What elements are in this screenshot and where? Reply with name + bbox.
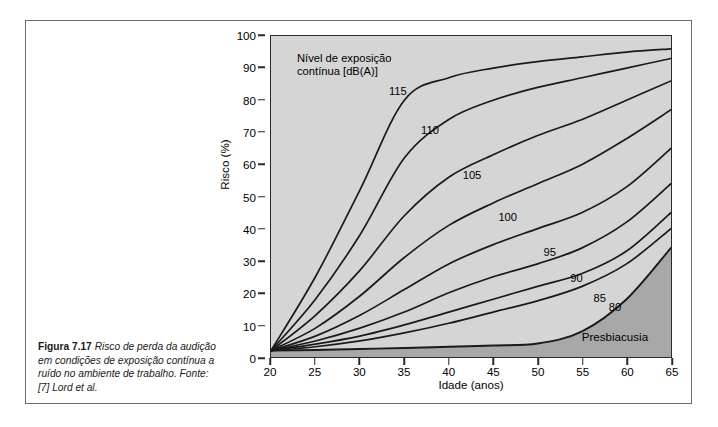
y-tick-mark-60 <box>258 163 265 165</box>
x-tick-label-30: 30 <box>353 365 366 378</box>
presbiacusia-annotation: Presbiacusia <box>582 330 648 343</box>
legend-title: Nível de exposição contínua [dB(A)] <box>297 52 392 79</box>
y-axis: 0102030405060708090100 <box>199 26 265 367</box>
y-tick-mark-80 <box>258 99 265 101</box>
x-tick-label-50: 50 <box>532 365 545 378</box>
x-tick-mark-25 <box>314 358 316 365</box>
plot-area: Nível de exposição contínua [dB(A)] Pres… <box>270 35 672 358</box>
x-tick-mark-20 <box>269 358 271 365</box>
y-tick-mark-20 <box>258 293 265 295</box>
y-tick-mark-30 <box>258 260 265 262</box>
x-tick-mark-40 <box>448 358 450 365</box>
x-tick-mark-60 <box>627 358 629 365</box>
x-tick-label-45: 45 <box>487 365 500 378</box>
y-tick-label-50: 50 <box>243 190 256 203</box>
x-tick-mark-35 <box>403 358 405 365</box>
y-axis-title: Risco (%) <box>218 110 231 220</box>
x-tick-label-35: 35 <box>398 365 411 378</box>
y-tick-label-80: 80 <box>243 93 256 106</box>
y-tick-mark-50 <box>258 196 265 198</box>
y-tick-label-30: 30 <box>243 255 256 268</box>
x-tick-label-55: 55 <box>576 365 589 378</box>
y-tick-label-0: 0 <box>250 352 256 365</box>
y-tick-mark-40 <box>258 228 265 230</box>
x-axis-title: Idade (anos) <box>270 378 672 391</box>
legend-title-line2: contínua [dB(A)] <box>297 65 392 78</box>
x-tick-label-65: 65 <box>666 365 679 378</box>
x-tick-label-25: 25 <box>308 365 321 378</box>
curve-label-90: 90 <box>570 272 582 284</box>
y-tick-label-20: 20 <box>243 287 256 300</box>
y-tick-mark-90 <box>258 67 265 69</box>
x-tick-label-40: 40 <box>442 365 455 378</box>
curve-label-85: 85 <box>594 292 606 304</box>
x-tick-mark-30 <box>359 358 361 365</box>
curve-label-95: 95 <box>543 246 555 258</box>
y-tick-label-100: 100 <box>237 29 256 42</box>
x-tick-label-60: 60 <box>621 365 634 378</box>
y-tick-label-40: 40 <box>243 222 256 235</box>
x-tick-mark-45 <box>493 358 495 365</box>
y-tick-label-60: 60 <box>243 158 256 171</box>
y-tick-mark-100 <box>258 34 265 36</box>
x-tick-mark-50 <box>537 358 539 365</box>
y-tick-label-90: 90 <box>243 61 256 74</box>
curve-label-100: 100 <box>498 211 517 223</box>
y-tick-mark-10 <box>258 325 265 327</box>
curve-label-80: 80 <box>609 301 621 313</box>
figure-root: Figura 7.17 Risco de perda da audição em… <box>0 0 718 427</box>
x-tick-mark-65 <box>671 358 673 365</box>
caption-label: Figura 7.17 <box>38 341 92 352</box>
chart: 0102030405060708090100 Risco (%) Nível d… <box>199 26 682 386</box>
x-axis: 20253035404550556065 <box>270 359 672 379</box>
curve-label-115: 115 <box>389 85 407 97</box>
y-tick-mark-70 <box>258 131 265 133</box>
y-tick-label-70: 70 <box>243 125 256 138</box>
y-tick-mark-0 <box>258 357 265 359</box>
x-tick-mark-55 <box>582 358 584 365</box>
figure-caption: Figura 7.17 Risco de perda da audição em… <box>38 340 218 394</box>
y-tick-label-10: 10 <box>243 319 256 332</box>
x-tick-label-20: 20 <box>264 365 277 378</box>
legend-title-line1: Nível de exposição <box>297 52 392 65</box>
curve-label-110: 110 <box>421 124 439 136</box>
curve-label-105: 105 <box>463 169 482 181</box>
